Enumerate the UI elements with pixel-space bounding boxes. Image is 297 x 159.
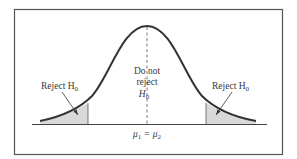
do-not-label: Do not	[134, 66, 160, 76]
reject-label: reject	[136, 77, 157, 87]
hypothesis-test-diagram: Reject H0 Reject H0 Do not reject H0 μ1=…	[0, 0, 297, 159]
